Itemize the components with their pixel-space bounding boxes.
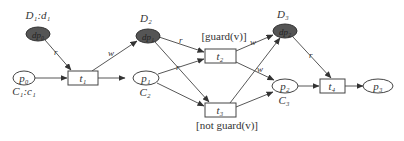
arc-label-r: r	[54, 47, 58, 57]
arc-t3-p2	[236, 92, 273, 107]
arc-label-w: w	[250, 37, 256, 47]
svg-text:dp₀: dp₀	[32, 30, 44, 40]
arc-p1-t3	[157, 83, 204, 106]
svg-text:p₃: p₃	[372, 80, 383, 92]
arc-label-w: w	[108, 48, 114, 58]
arc-t1-dp1	[92, 41, 137, 71]
place-p3: p₃	[363, 79, 393, 93]
arc-t2-p2	[236, 62, 274, 80]
arc-dp0-t1	[45, 40, 71, 70]
arc-label-r: r	[176, 62, 180, 72]
svg-text:t₂: t₂	[217, 50, 224, 62]
transition-t3: t₃ [not guard(v)]	[196, 103, 258, 132]
arc-labels: r w r r w w r	[54, 35, 313, 74]
transition-t2: t₂ [guard(v)]	[201, 30, 246, 63]
arc-t3-dp2	[230, 38, 280, 103]
transition-t4: t₄	[320, 79, 345, 93]
arc-label-r: r	[309, 50, 313, 60]
arc-p1-t2	[158, 59, 204, 74]
svg-text:D₂: D₂	[139, 12, 152, 24]
svg-text:C₁:c₁: C₁:c₁	[12, 85, 36, 97]
data-place-dp2: dp₂ D₃	[273, 8, 297, 38]
svg-text:t₁: t₁	[80, 72, 87, 84]
svg-text:dp₂: dp₂	[279, 27, 291, 37]
svg-text:dp₁: dp₁	[142, 32, 154, 42]
svg-text:C₂: C₂	[139, 86, 150, 98]
svg-text:C₃: C₃	[278, 94, 289, 106]
petri-net-diagram: r w r r w w r dp₀ D₁:d₁ dp₁ D₂ dp₂ D₃ p₀…	[0, 0, 404, 141]
svg-text:p₂: p₂	[279, 80, 290, 92]
svg-text:D₁:d₁: D₁:d₁	[25, 9, 51, 21]
not-guard-label: [not guard(v)]	[196, 119, 258, 132]
data-place-dp0: dp₀ D₁:d₁	[25, 9, 51, 41]
place-p2: p₂ C₃	[272, 79, 298, 106]
svg-text:p₁: p₁	[140, 72, 151, 84]
arc-label-r: r	[179, 35, 183, 45]
guard-label: [guard(v)]	[201, 30, 246, 43]
svg-text:p₀: p₀	[18, 72, 29, 84]
svg-text:t₃: t₃	[217, 104, 224, 116]
data-place-dp1: dp₁ D₂	[136, 12, 160, 43]
transition-t1: t₁	[68, 71, 98, 85]
arc-label-w: w	[257, 64, 263, 74]
svg-text:t₄: t₄	[329, 80, 336, 92]
svg-text:D₃: D₃	[276, 8, 289, 20]
place-p0: p₀ C₁:c₁	[12, 71, 36, 97]
place-p1: p₁ C₂	[133, 71, 159, 98]
